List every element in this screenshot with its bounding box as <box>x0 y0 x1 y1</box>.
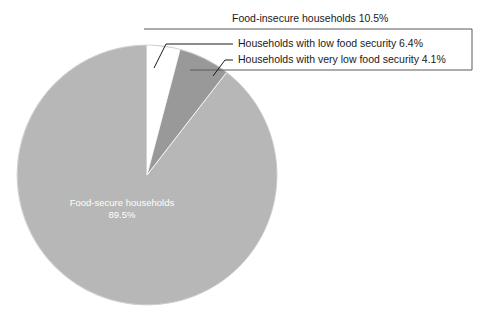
chart-canvas: Food-secure households 89.5% Food-insecu… <box>0 0 478 315</box>
pie-chart-figure: Food-secure households 89.5% Food-insecu… <box>0 0 478 315</box>
pie-slices <box>17 45 277 305</box>
group-callout-label: Food-insecure households 10.5% <box>232 12 388 24</box>
subitem-callout-label-low: Households with low food security 6.4% <box>238 37 423 49</box>
subitem-callout-label-very-low: Households with very low food security 4… <box>238 53 446 65</box>
pie-inner-label-line1: Food-secure households <box>70 197 175 208</box>
pie-inner-label-line2: 89.5% <box>109 209 136 220</box>
